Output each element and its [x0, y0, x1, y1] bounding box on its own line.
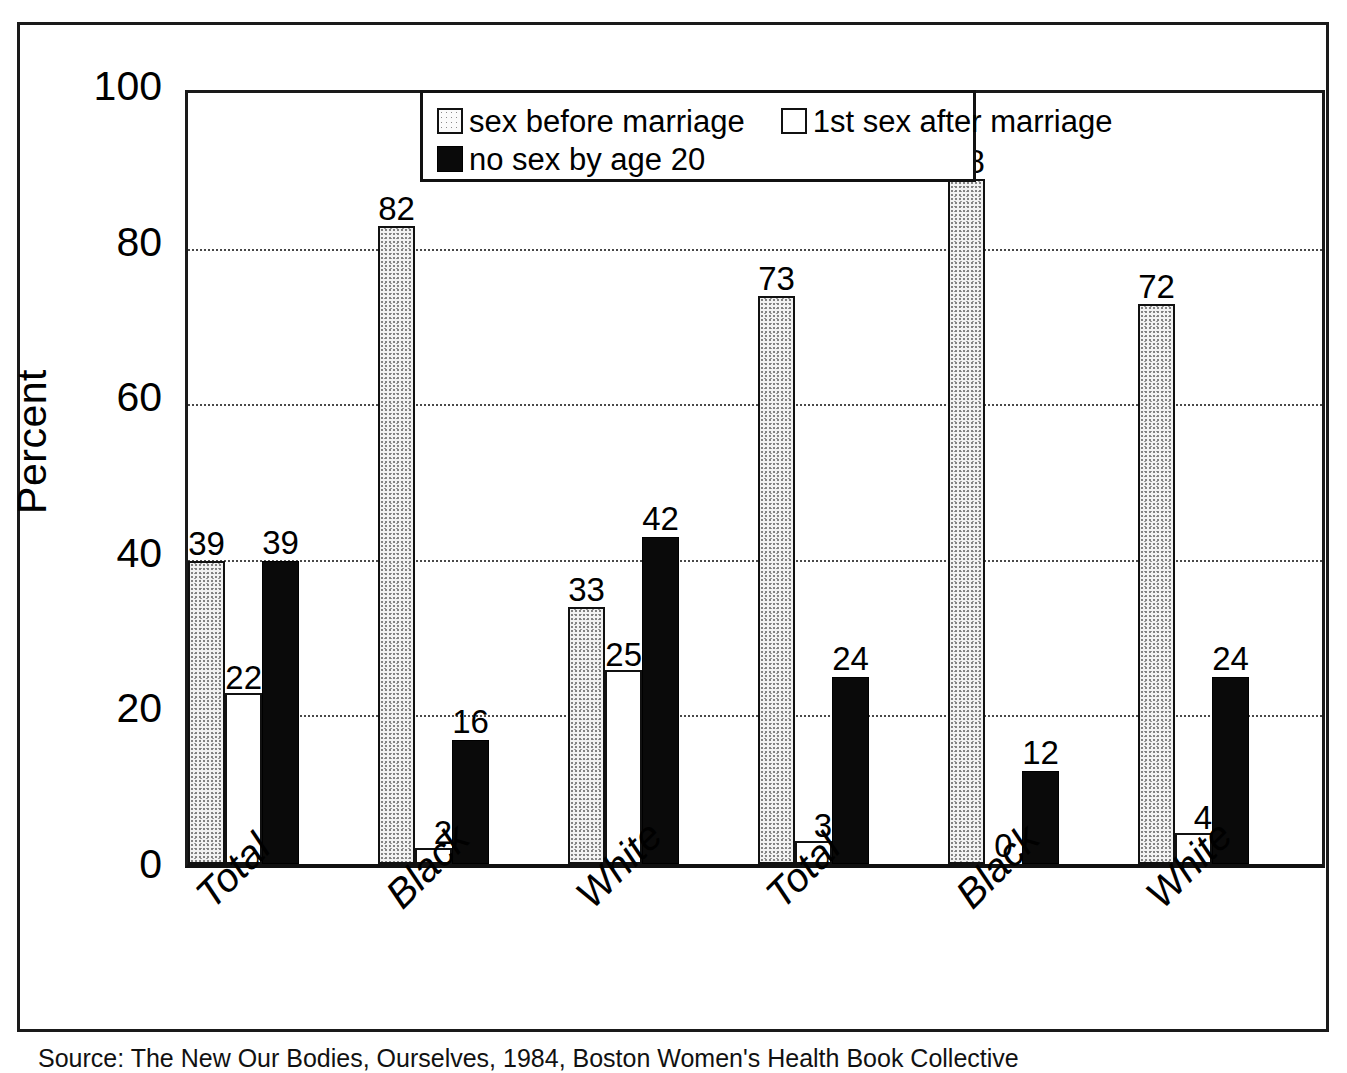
bar-value-label: 24 — [832, 642, 869, 675]
bar: 39 — [188, 561, 225, 864]
bar: 72 — [1138, 304, 1175, 864]
bar: 73 — [758, 296, 795, 864]
y-axis-tick-label: 80 — [42, 219, 162, 266]
bar-value-label: 39 — [262, 526, 299, 559]
legend-entry[interactable]: 1st sex after marriage — [781, 106, 1113, 137]
bar: 24 — [832, 677, 869, 864]
bar-value-label: 24 — [1212, 642, 1249, 675]
bar-value-label: 73 — [758, 262, 795, 295]
legend-label: 1st sex after marriage — [813, 106, 1113, 137]
bar-value-label: 72 — [1138, 270, 1175, 303]
y-axis-tick-label: 20 — [42, 685, 162, 732]
bar-value-label: 42 — [642, 502, 679, 535]
plot-area: 39223982216332542733248801272424 — [185, 90, 1325, 868]
figure-caption: Source: The New Our Bodies, Ourselves, 1… — [38, 1044, 1019, 1073]
legend-label: no sex by age 20 — [469, 144, 705, 175]
gridline — [188, 249, 1322, 251]
bar: 82 — [378, 226, 415, 864]
chart-legend: sex before marriage1st sex after marriag… — [420, 90, 976, 182]
bar-value-label: 39 — [188, 527, 225, 560]
bar: 88 — [948, 179, 985, 864]
bar-value-label: 12 — [1022, 736, 1059, 769]
y-axis-tick-label: 40 — [42, 530, 162, 577]
y-axis-tick-label: 100 — [42, 63, 162, 110]
legend-label: sex before marriage — [469, 106, 745, 137]
bar: 42 — [642, 537, 679, 864]
legend-row: no sex by age 20 — [437, 140, 973, 178]
bar-value-label: 82 — [378, 192, 415, 225]
white-swatch-icon — [781, 108, 807, 134]
bar: 39 — [262, 561, 299, 864]
bar-value-label: 22 — [225, 661, 262, 694]
y-axis-tick-label: 60 — [42, 374, 162, 421]
stipple-swatch-icon — [437, 108, 463, 134]
legend-row: sex before marriage1st sex after marriag… — [437, 102, 973, 140]
bar-value-label: 33 — [568, 573, 605, 606]
black-swatch-icon — [437, 146, 463, 172]
legend-entry[interactable]: sex before marriage — [437, 106, 745, 137]
bar-value-label: 25 — [605, 638, 642, 671]
legend-entry[interactable]: no sex by age 20 — [437, 144, 705, 175]
bar-value-label: 16 — [452, 705, 489, 738]
y-axis-tick-label: 0 — [42, 841, 162, 888]
bar: 33 — [568, 607, 605, 864]
